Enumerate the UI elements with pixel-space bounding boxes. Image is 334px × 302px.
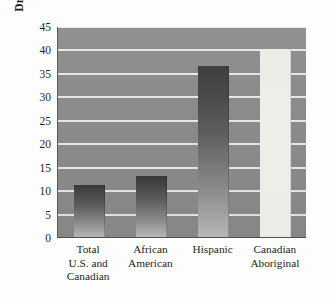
bar <box>260 49 291 237</box>
plot-area <box>57 27 306 238</box>
y-axis-tick-label: 10 <box>27 185 51 197</box>
x-axis-category-label: Canadian Aboriginal <box>240 243 310 270</box>
y-axis-tick-label: 15 <box>27 162 51 174</box>
y-axis-tick-label: 5 <box>27 209 51 221</box>
y-axis-tick-label: 0 <box>27 232 51 244</box>
gridline <box>58 27 306 28</box>
y-axis-tick-label: 25 <box>27 115 51 127</box>
y-axis-tick-label: 45 <box>27 21 51 33</box>
x-axis-category-label: African American <box>115 243 185 270</box>
bar-chart: Dropout Rates (percentage) 0510152025303… <box>0 0 334 302</box>
bar <box>74 185 105 237</box>
bar <box>198 66 229 237</box>
y-axis-tick-label: 40 <box>27 44 51 56</box>
y-axis-tick-label: 30 <box>27 91 51 103</box>
x-axis-category-label: Hispanic <box>178 243 248 257</box>
y-axis-tick-label: 35 <box>27 68 51 80</box>
x-axis-category-labels: Total U.S. and CanadianAfrican AmericanH… <box>57 243 306 298</box>
x-axis-category-label: Total U.S. and Canadian <box>53 243 123 284</box>
y-axis-tick-label: 20 <box>27 138 51 150</box>
bar <box>136 176 167 237</box>
